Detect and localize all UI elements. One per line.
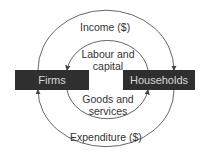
firms-node: Firms: [15, 70, 89, 90]
income-label: Income ($): [80, 21, 130, 33]
labour-label-line2: capital: [78, 60, 138, 72]
households-label: Households: [130, 74, 188, 86]
expenditure-label: Expenditure ($): [70, 131, 142, 143]
households-node: Households: [123, 70, 195, 90]
goods-label-line1: Goods and: [78, 93, 138, 105]
labour-label: Labour and capital: [78, 48, 138, 72]
goods-label: Goods and services: [78, 93, 138, 117]
labour-label-line1: Labour and: [78, 48, 138, 60]
firms-label: Firms: [38, 74, 66, 86]
goods-label-line2: services: [78, 105, 138, 117]
